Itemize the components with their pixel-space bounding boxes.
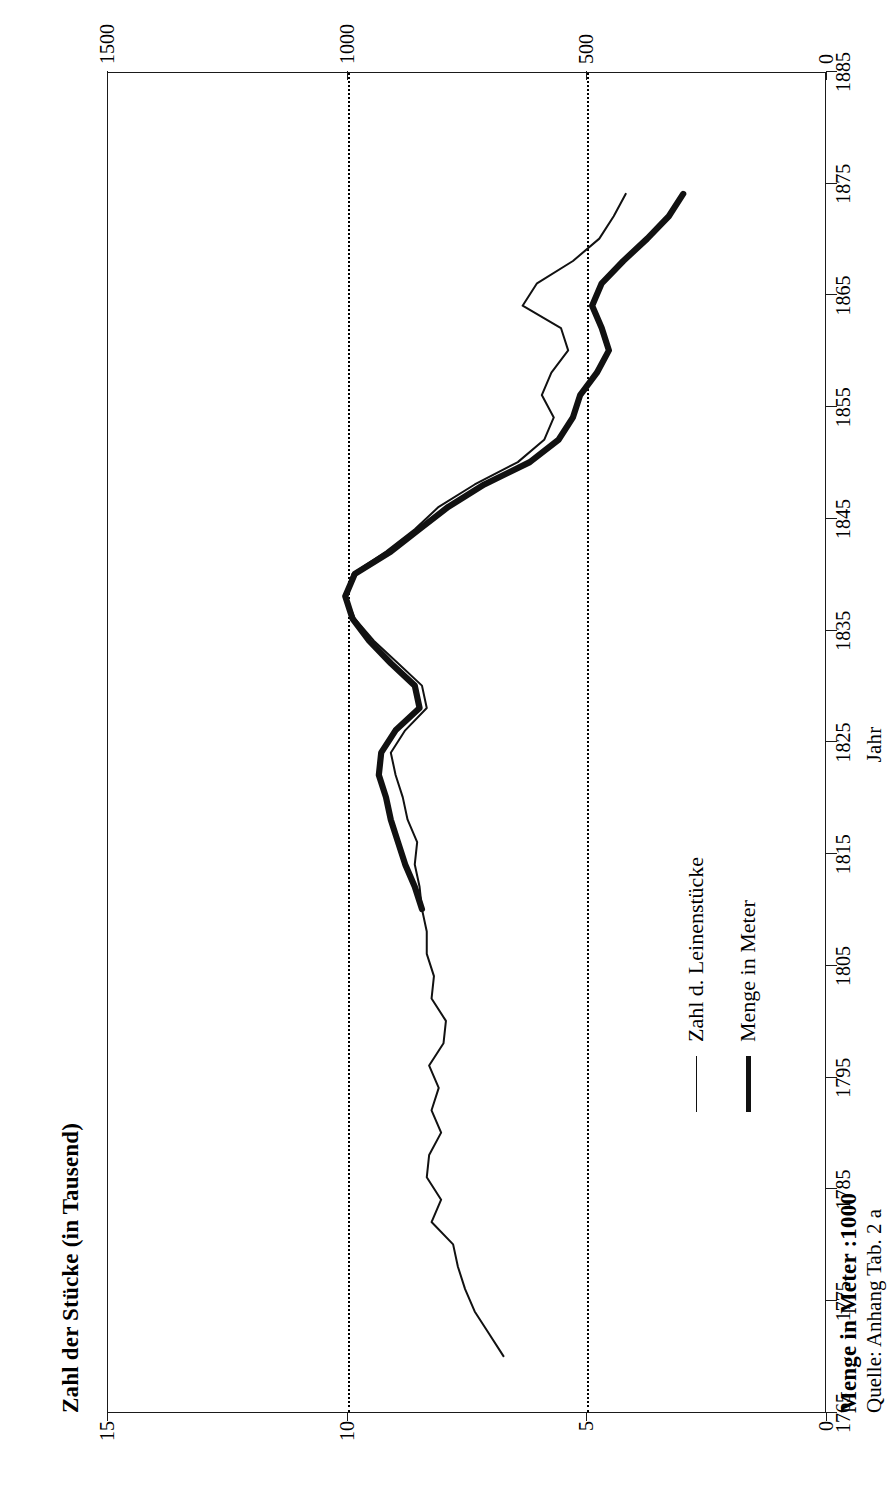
- source-note: Quelle: Anhang Tab. 2 a: [862, 1209, 887, 1413]
- y-left-tick-label-0: 0: [815, 1421, 838, 1489]
- y-left-tick-mark: [826, 1412, 827, 1421]
- y-left-tick-label-15: 15: [96, 1421, 119, 1489]
- y-right-tick-label-500: 500: [575, 34, 598, 64]
- x-tick-label-1875: 1875: [832, 164, 855, 204]
- y-left-tick-mark: [347, 1412, 348, 1421]
- x-tick-label-1855: 1855: [832, 387, 855, 427]
- y-right-tick-label-0: 0: [815, 54, 838, 64]
- series-layer: [108, 71, 827, 1412]
- y-right-tick-mark: [586, 71, 587, 80]
- x-tick-label-1775: 1775: [832, 1281, 855, 1321]
- y-left-tick-mark: [586, 1412, 587, 1421]
- y-left-tick-label-10: 10: [335, 1421, 358, 1489]
- series-line-zahl-d-leinenstuecke: [345, 194, 625, 1356]
- y-left-tick-label-5: 5: [575, 1421, 598, 1489]
- y-right-tick-label-1000: 1000: [335, 24, 358, 64]
- legend-label-zahl-d-leinenstuecke: Zahl d. Leinenstücke: [683, 857, 709, 1042]
- x-tick-label-1865: 1865: [832, 276, 855, 316]
- rotated-chart-wrapper: Menge in Meter :1000 Zahl der Stücke (in…: [0, 0, 892, 1489]
- x-tick-label-1835: 1835: [832, 611, 855, 651]
- legend-label-menge-in-meter: Menge in Meter: [735, 900, 761, 1042]
- legend: Zahl d. Leinenstücke Menge in Meter: [683, 857, 761, 1112]
- legend-swatch-thick-line: [746, 1056, 751, 1112]
- x-tick-label-1805: 1805: [832, 946, 855, 986]
- axis-title-zahl-der-stuecke: Zahl der Stücke (in Tausend): [58, 1123, 84, 1413]
- plot-area: Zahl d. Leinenstücke Menge in Meter: [107, 72, 826, 1413]
- series-line-menge-in-meter: [345, 194, 683, 909]
- legend-item-menge-in-meter: Menge in Meter: [735, 857, 761, 1112]
- x-tick-label-1815: 1815: [832, 834, 855, 874]
- y-right-tick-label-1500: 1500: [96, 24, 119, 64]
- y-right-tick-mark: [347, 71, 348, 80]
- legend-swatch-thin-line: [696, 1056, 697, 1112]
- legend-item-zahl-d-leinenstuecke: Zahl d. Leinenstücke: [683, 857, 709, 1112]
- x-tick-label-1785: 1785: [832, 1170, 855, 1210]
- y-left-tick-mark: [107, 1412, 108, 1421]
- y-right-tick-mark: [107, 71, 108, 80]
- x-tick-label-1845: 1845: [832, 499, 855, 539]
- x-tick-label-1795: 1795: [832, 1058, 855, 1098]
- x-tick-label-1825: 1825: [832, 723, 855, 763]
- y-right-tick-mark: [826, 71, 827, 80]
- chart-canvas: Menge in Meter :1000 Zahl der Stücke (in…: [0, 0, 892, 1489]
